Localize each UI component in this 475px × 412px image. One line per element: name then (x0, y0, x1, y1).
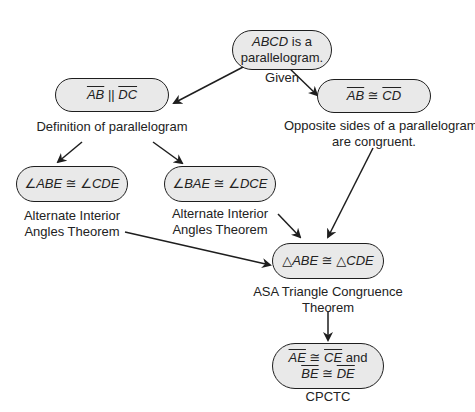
edge-angle-bae-to-triangles (278, 214, 300, 237)
angle-bae-dce-statement: ∠BAE ≅ ∠DCE (173, 176, 268, 192)
ab-congruent-cd-reason-line1: Opposite sides of a parallelogram (284, 118, 464, 134)
given-statement-line2: parallelogram. (241, 50, 323, 66)
cpctc-statement-line1: AE ≅ CE and (289, 350, 368, 366)
edge-parallel-to-angle-abe (58, 142, 82, 162)
cpctc-reason: CPCTC (298, 389, 358, 405)
ab-congruent-cd-node: AB ≅ CD (317, 79, 431, 113)
angle-bae-dce-reason-line2: Angles Theorem (160, 222, 280, 238)
angle-bae-dce-node: ∠BAE ≅ ∠DCE (164, 166, 276, 202)
cpctc-statement-line2: BE ≅ DE (301, 366, 355, 382)
ab-congruent-cd-statement: AB ≅ CD (347, 88, 401, 104)
given-statement-line1: ABCD is a (252, 34, 312, 50)
given-reason: Given (262, 70, 302, 86)
angle-abe-cde-statement: ∠ABE ≅ ∠CDE (25, 176, 120, 192)
edge-given-to-parallel (174, 66, 245, 103)
triangles-congruent-reason-line2: Theorem (248, 300, 408, 316)
ab-parallel-dc-reason: Definition of parallelogram (22, 119, 202, 135)
given-node: ABCD is a parallelogram. (232, 30, 332, 70)
cpctc-node: AE ≅ CE and BE ≅ DE (272, 343, 384, 389)
ab-congruent-cd-reason-line2: are congruent. (284, 134, 464, 150)
triangles-congruent-reason-line1: ASA Triangle Congruence (248, 284, 408, 300)
edge-congruent-sides-to-triangles (328, 148, 373, 237)
triangles-congruent-node: △ABE ≅ △CDE (272, 243, 384, 279)
angle-abe-cde-node: ∠ABE ≅ ∠CDE (16, 166, 128, 202)
angle-abe-cde-reason-line1: Alternate Interior (12, 208, 132, 224)
edge-parallel-to-angle-bae (153, 142, 182, 163)
ab-parallel-dc-node: AB || DC (55, 78, 169, 112)
angle-bae-dce-reason-line1: Alternate Interior (160, 206, 280, 222)
triangles-congruent-statement: △ABE ≅ △CDE (282, 253, 374, 269)
angle-abe-cde-reason-line2: Angles Theorem (12, 224, 132, 240)
ab-parallel-dc-statement: AB || DC (87, 87, 137, 103)
